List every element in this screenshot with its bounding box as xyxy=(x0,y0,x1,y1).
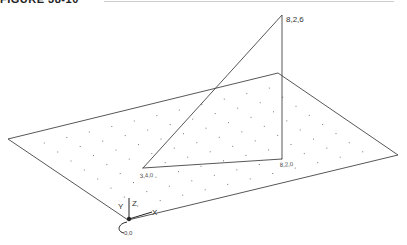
y-axis-label: Y xyxy=(118,202,124,211)
ground-plane xyxy=(8,73,398,220)
left-vertex-label: 3,4,0 xyxy=(140,172,154,179)
z-axis-label: Z xyxy=(132,199,137,208)
grid-dots xyxy=(44,88,363,207)
x-axis-label: X xyxy=(152,208,158,217)
triangle xyxy=(143,15,282,168)
right-vertex-label: 8,2,0 xyxy=(280,161,294,168)
apex-label: 8,2,6 xyxy=(286,15,304,24)
wireframe-drawing: 8,2,6 3,4,0 8,2,0 Z Y X 0,0 xyxy=(0,0,407,245)
origin-label: 0,0 xyxy=(124,230,133,236)
